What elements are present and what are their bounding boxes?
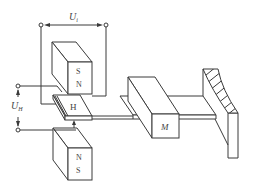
arrow-right-icon [97, 23, 103, 27]
bottom-magnet-pole-n: N [76, 153, 82, 162]
control-voltage-label: Ui [69, 11, 78, 23]
top-magnet-pole-s: S [76, 67, 80, 76]
arrow-up-icon [16, 89, 20, 95]
control-terminal-left [39, 23, 43, 27]
hall-terminal-bottom [16, 128, 20, 132]
hall-element-label: H [70, 102, 77, 112]
hall-sensor-diagram: Ui UH [0, 0, 264, 182]
mass-label: M [160, 122, 169, 132]
bottom-magnet-pole-s: S [76, 166, 80, 175]
hall-voltage-label: UH [11, 100, 23, 112]
top-magnet: S N [52, 42, 92, 94]
bottom-magnet: N S [53, 128, 92, 180]
mass-block: M [128, 77, 179, 138]
arrow-up-icon [72, 120, 76, 125]
hall-terminal-top [16, 84, 20, 88]
arrow-down-icon [16, 121, 20, 127]
hall-voltage-circuit: UH [11, 84, 62, 132]
arrow-left-icon [44, 23, 50, 27]
hall-element: H [53, 95, 92, 128]
control-terminal-right [104, 23, 108, 27]
top-magnet-pole-n: N [76, 80, 82, 89]
